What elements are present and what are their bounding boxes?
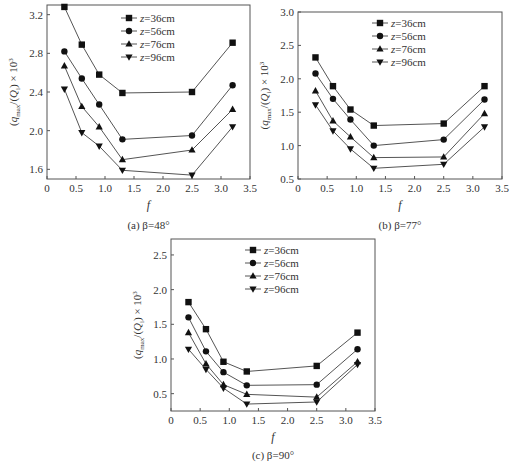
- y-tick-label: 2.0: [153, 284, 167, 296]
- series-line: [188, 317, 357, 385]
- legend-marker-icon: [125, 54, 132, 60]
- legend-label: z=36cm: [390, 17, 426, 29]
- figure-canvas: 00.51.01.52.02.53.03.51.62.02.42.83.2f(q…: [0, 0, 517, 465]
- legend: z=36cmz=56cmz=76cmz=96cm: [372, 17, 426, 68]
- data-point-marker-icon: [229, 82, 235, 88]
- data-point-marker-icon: [189, 89, 195, 95]
- legend-marker-icon: [249, 272, 256, 278]
- series-z-36cm: [185, 299, 360, 375]
- data-point-marker-icon: [354, 329, 360, 335]
- x-tick-label: 1.0: [222, 414, 236, 426]
- x-axis-label: f: [271, 430, 276, 444]
- legend: z=36cmz=56cmz=76cmz=96cm: [245, 244, 299, 295]
- data-point-marker-icon: [189, 132, 195, 138]
- legend-label: z=76cm: [390, 43, 426, 55]
- data-point-marker-icon: [481, 96, 487, 102]
- data-point-marker-icon: [441, 120, 447, 126]
- y-axis-label: (qmax/(Qi) × 103: [131, 291, 146, 359]
- data-point-marker-icon: [441, 136, 447, 142]
- legend-marker-icon: [126, 15, 132, 21]
- data-point-marker-icon: [329, 117, 336, 123]
- data-point-marker-icon: [220, 386, 227, 392]
- y-tick-label: 1.0: [280, 140, 294, 152]
- y-tick-label: 1.6: [29, 163, 43, 175]
- x-tick-label: 0.5: [193, 414, 207, 426]
- data-point-marker-icon: [185, 329, 192, 335]
- data-point-marker-icon: [220, 369, 226, 375]
- data-point-marker-icon: [314, 381, 320, 387]
- x-tick-label: 3.0: [339, 414, 353, 426]
- data-point-marker-icon: [347, 106, 353, 112]
- x-tick-label: 3.0: [466, 182, 480, 194]
- data-point-marker-icon: [185, 299, 191, 305]
- x-tick-label: 1.0: [349, 182, 363, 194]
- data-point-marker-icon: [354, 346, 360, 352]
- x-tick-label: 2.5: [185, 182, 199, 194]
- y-tick-label: 3.0: [280, 6, 294, 18]
- series-line: [315, 105, 484, 168]
- x-tick-label: 1.0: [98, 182, 112, 194]
- y-tick-label: 2.5: [153, 249, 167, 261]
- data-point-marker-icon: [78, 130, 85, 136]
- data-point-marker-icon: [119, 90, 125, 96]
- x-tick-label: 0: [295, 182, 301, 194]
- legend: z=36cmz=56cmz=76cmz=96cm: [121, 12, 175, 63]
- x-axis-label: f: [147, 198, 152, 212]
- legend-label: z=96cm: [390, 56, 426, 68]
- y-tick-label: 0.5: [280, 173, 294, 185]
- panel-caption: (c) β=90°: [252, 449, 294, 462]
- y-axis-label: (qmax/(Qi) × 103: [7, 58, 22, 126]
- panel-caption: (b) β=77°: [379, 219, 422, 232]
- legend-marker-icon: [250, 247, 256, 253]
- data-point-marker-icon: [330, 83, 336, 89]
- data-point-marker-icon: [229, 40, 235, 46]
- data-point-marker-icon: [371, 142, 377, 148]
- data-point-marker-icon: [185, 314, 191, 320]
- data-point-marker-icon: [119, 136, 125, 142]
- y-tick-label: 2.0: [280, 73, 294, 85]
- data-point-marker-icon: [371, 122, 377, 128]
- data-point-marker-icon: [312, 54, 318, 60]
- x-tick-label: 2.0: [281, 414, 295, 426]
- series-z-96cm: [185, 347, 361, 408]
- data-point-marker-icon: [312, 102, 319, 108]
- data-point-marker-icon: [313, 399, 320, 405]
- x-tick-label: 1.5: [379, 182, 393, 194]
- legend-label: z=56cm: [139, 25, 175, 37]
- series-line: [64, 51, 232, 139]
- x-tick-label: 0: [168, 414, 174, 426]
- data-point-marker-icon: [312, 70, 318, 76]
- data-point-marker-icon: [202, 360, 209, 366]
- legend-label: z=76cm: [139, 38, 175, 50]
- legend-label: z=96cm: [263, 283, 299, 295]
- legend-marker-icon: [376, 59, 383, 65]
- series-line: [64, 66, 232, 160]
- y-tick-label: 2.5: [280, 39, 294, 51]
- y-tick-label: 2.4: [29, 86, 43, 98]
- x-tick-label: 2.5: [437, 182, 451, 194]
- legend-marker-icon: [250, 260, 256, 266]
- x-tick-label: 2.5: [310, 414, 324, 426]
- x-tick-label: 1.5: [252, 414, 266, 426]
- series-line: [64, 89, 232, 175]
- data-point-marker-icon: [61, 48, 67, 54]
- data-point-marker-icon: [188, 173, 195, 179]
- data-point-marker-icon: [330, 96, 336, 102]
- legend-label: z=96cm: [139, 51, 175, 63]
- legend-marker-icon: [377, 33, 383, 39]
- data-point-marker-icon: [61, 62, 68, 68]
- x-tick-label: 1.5: [127, 182, 141, 194]
- legend-marker-icon: [376, 45, 383, 51]
- y-axis-label: (qmax/(Qi) × 103: [258, 61, 273, 129]
- legend-marker-icon: [126, 28, 132, 34]
- data-point-marker-icon: [347, 116, 353, 122]
- data-point-marker-icon: [220, 359, 226, 365]
- data-point-marker-icon: [78, 103, 85, 109]
- x-tick-label: 3.5: [368, 414, 382, 426]
- data-point-marker-icon: [203, 326, 209, 332]
- data-point-marker-icon: [347, 146, 354, 152]
- chart-panel-c: 00.51.01.52.02.53.03.50.51.01.52.02.5f(q…: [131, 239, 382, 462]
- legend-label: z=36cm: [139, 12, 175, 24]
- data-point-marker-icon: [481, 83, 487, 89]
- data-point-marker-icon: [314, 363, 320, 369]
